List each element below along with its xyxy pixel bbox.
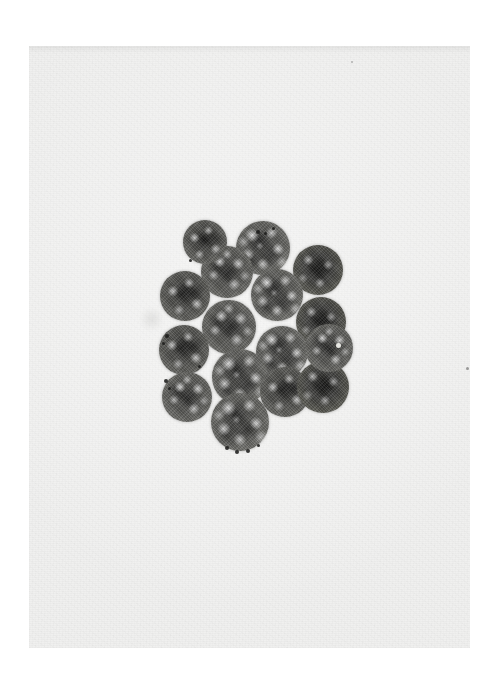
- colony-cell: [305, 324, 353, 372]
- photographic-plate: [29, 46, 470, 648]
- colony-cell: [251, 269, 303, 321]
- cell-granule: [198, 365, 201, 368]
- colony-cell: [160, 271, 210, 321]
- page-canvas: [0, 0, 499, 694]
- colony-cell: [183, 220, 227, 264]
- cell-granule: [189, 259, 192, 262]
- colony-cell: [159, 325, 209, 375]
- cell-granule: [168, 387, 171, 390]
- dust-speck-icon: [466, 367, 469, 370]
- cell-granule: [164, 379, 168, 383]
- cell-granule: [235, 450, 239, 454]
- colony-cell: [202, 300, 256, 354]
- cell-granule: [264, 232, 267, 235]
- cell-granule: [246, 449, 250, 453]
- dust-speck-upper-icon: [351, 61, 353, 63]
- cell-granule: [256, 230, 260, 234]
- cell-granule: [165, 334, 169, 338]
- pyrenoid-spot: [336, 343, 341, 348]
- colony-cell: [211, 393, 269, 451]
- cell-colony: [29, 46, 470, 648]
- debris-smudge-artifact: [139, 308, 165, 330]
- cell-granule: [225, 446, 229, 450]
- cell-granule: [257, 444, 260, 447]
- cell-granule: [272, 227, 275, 230]
- cell-granule: [162, 342, 165, 345]
- colony-cell: [162, 372, 212, 422]
